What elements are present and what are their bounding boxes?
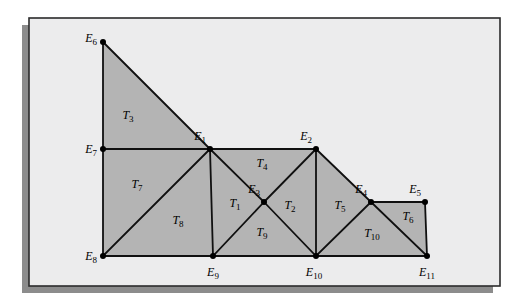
vertex-dot-e8: [100, 253, 106, 259]
vertex-dot-e4: [368, 199, 374, 205]
vertex-dot-e9: [210, 253, 216, 259]
vertex-dot-e11: [424, 253, 430, 259]
vertex-dot-e7: [100, 146, 106, 152]
vertex-dot-e1: [207, 146, 213, 152]
vertex-dot-e2: [313, 146, 319, 152]
figure-stage: E1E2E3E4E5E6E7E8E9E10E11 T1T2T3T4T5T6T7T…: [0, 0, 516, 305]
vertex-dot-e5: [422, 199, 428, 205]
vertex-dot-e6: [100, 39, 106, 45]
vertex-dot-e3: [261, 199, 267, 205]
vertex-dot-e10: [313, 253, 319, 259]
triangulation-figure: E1E2E3E4E5E6E7E8E9E10E11 T1T2T3T4T5T6T7T…: [0, 0, 516, 305]
